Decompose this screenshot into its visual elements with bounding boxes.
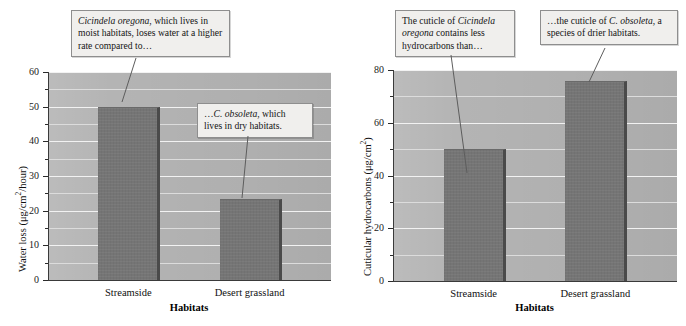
gridline-major — [394, 123, 677, 124]
y-tick-mark-minor — [45, 124, 48, 125]
y-axis-title-cuticular-hydrocarbons: Cuticular hydrocarbons (μg/cm2) — [359, 137, 373, 276]
y-tick-label: 0 — [353, 276, 384, 286]
y-tick-mark — [388, 228, 393, 229]
chart-panel-water-loss: 0102030405060 Water loss (μg/cm2/hour) S… — [0, 0, 343, 326]
x-category-label: Streamside — [414, 288, 534, 299]
gridline-minor — [394, 255, 677, 256]
gridline-major — [394, 70, 677, 71]
x-category-label: Desert grassland — [190, 287, 310, 298]
y-tick-mark-minor — [390, 149, 393, 150]
y-tick-label: 50 — [8, 102, 39, 112]
species-name: Cicindela oregona — [78, 15, 149, 26]
y-tick-mark-minor — [390, 96, 393, 97]
bar-texture — [565, 82, 624, 281]
gridline-major — [49, 211, 331, 212]
gridline-minor — [49, 89, 331, 90]
x-category-label: Desert grassland — [535, 288, 655, 299]
plot-area-cuticular-hydrocarbons — [393, 70, 677, 282]
y-tick-mark — [388, 70, 393, 71]
bar-streamside — [98, 107, 160, 280]
callout-obsoleta-water: …C. obsoleta, which lives in dry habitat… — [197, 103, 313, 138]
y-tick-mark — [388, 281, 393, 282]
y-tick-label: 0 — [8, 275, 39, 285]
y-tick-mark — [43, 107, 48, 108]
gridline-major — [49, 245, 331, 246]
callout-obsoleta-cuticle: …the cuticle of C. obsoleta, a species o… — [540, 10, 678, 45]
y-tick-mark-minor — [45, 263, 48, 264]
y-tick-mark-minor — [390, 202, 393, 203]
chart-panel-cuticular-hydrocarbons: 020406080 Cuticular hydrocarbons (μg/cm2… — [343, 0, 686, 326]
y-tick-mark-minor — [45, 89, 48, 90]
x-axis-title-water-loss: Habitats — [48, 302, 330, 313]
species-name: C. obsoleta — [609, 15, 653, 26]
bar-desert-grassland — [565, 81, 627, 281]
gridline-major — [394, 176, 677, 177]
gridline-major — [49, 176, 331, 177]
species-name: Cicindela oregona — [402, 15, 495, 38]
y-tick-label: 60 — [8, 67, 39, 77]
y-tick-mark — [388, 123, 393, 124]
gridline-major — [394, 228, 677, 229]
y-tick-label: 60 — [353, 118, 384, 128]
y-tick-mark-minor — [45, 159, 48, 160]
x-category-label: Streamside — [68, 287, 188, 298]
bar-streamside — [444, 149, 506, 281]
y-title-superscript: 2 — [14, 192, 23, 196]
y-tick-mark — [43, 245, 48, 246]
y-title-superscript: 2 — [359, 141, 368, 145]
y-axis-title-water-loss: Water loss (μg/cm2/hour) — [14, 166, 28, 272]
gridline-minor — [49, 193, 331, 194]
gridline-minor — [49, 228, 331, 229]
y-tick-mark — [43, 176, 48, 177]
species-name: C. obsoleta — [214, 108, 258, 119]
y-tick-mark-minor — [45, 228, 48, 229]
y-tick-mark — [388, 176, 393, 177]
gridline-minor — [394, 202, 677, 203]
y-tick-mark — [43, 211, 48, 212]
bar-texture — [220, 200, 279, 280]
gridline-minor — [394, 149, 677, 150]
y-tick-label: 40 — [8, 136, 39, 146]
y-tick-mark — [43, 141, 48, 142]
gridline-minor — [49, 159, 331, 160]
figure-root: 0102030405060 Water loss (μg/cm2/hour) S… — [0, 0, 686, 326]
x-axis-title-cuticular-hydrocarbons: Habitats — [393, 302, 676, 313]
bar-texture — [444, 150, 503, 281]
y-tick-label: 80 — [353, 65, 384, 75]
gridline-minor — [49, 263, 331, 264]
gridline-major — [49, 141, 331, 142]
y-tick-mark — [43, 72, 48, 73]
callout-oregona-water: Cicindela oregona, which lives in moist … — [71, 10, 230, 57]
callout-oregona-cuticle: The cuticle of Cicindela oregona contain… — [395, 10, 515, 57]
y-tick-mark-minor — [45, 193, 48, 194]
y-tick-mark — [43, 280, 48, 281]
bar-texture — [98, 108, 157, 280]
gridline-minor — [394, 96, 677, 97]
bar-desert-grassland — [220, 199, 282, 280]
gridline-major — [49, 72, 331, 73]
y-tick-mark-minor — [390, 255, 393, 256]
